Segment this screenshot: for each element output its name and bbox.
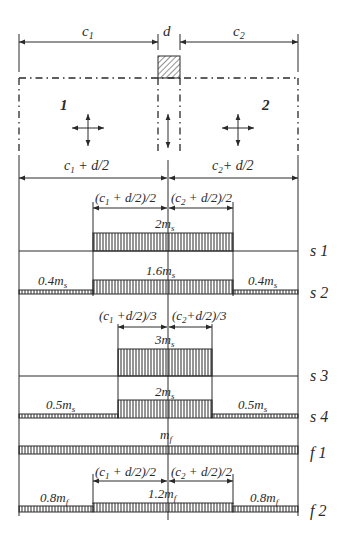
s3-moment-block [118,349,212,376]
s4-right-block [212,414,298,418]
f2-right-label: 0.8mf [250,490,280,507]
s3-row-label: s 3 [310,367,328,384]
two-way-moment-icon-right [222,114,254,146]
f2-row-label: f 2 [310,502,326,520]
s4-center-label: 2ms [155,384,175,401]
c1-half-label: c1 + d/2 [64,158,109,175]
panel-boundaries [19,78,298,155]
s3-moment-label: 3ms [154,332,175,349]
c2-label: c2 [233,23,245,41]
s4-row-label: s 4 [310,408,328,425]
strip-s4: 2ms 0.5ms 0.5ms s 4 [19,384,328,425]
strip-f2: (c1 + d/2)/2 (c2 + d/2)/2 1.2mf 0.8mf 0.… [19,464,326,520]
s2-center-block [93,280,233,294]
c1-label: c1 [82,23,94,41]
s1-dim-right-label: (c2 + d/2)/2 [171,190,232,207]
s4-right-label: 0.5ms [238,397,268,414]
strip-s2: 1.6ms 0.4ms 0.4ms s 2 [19,263,328,301]
s3-dim-left-label: (c1 +d/2)/3 [99,308,157,325]
column-section [158,56,180,78]
s2-right-block [233,290,298,294]
s3-dim-right-label: (c2+d/2)/3 [172,308,227,325]
f2-center-block [93,503,233,512]
f2-left-label: 0.8mf [40,490,70,507]
s4-left-block [19,414,118,418]
s4-left-label: 0.5ms [46,397,76,414]
s2-row-label: s 2 [310,284,328,301]
f2-dim-left-label: (c1 + d/2)/2 [95,464,156,481]
f2-right-block [233,506,298,512]
panel-1-label: 1 [60,97,68,113]
f1-moment-block [19,446,298,454]
s4-center-block [118,400,212,418]
s2-left-label: 0.4ms [38,273,68,290]
f2-center-label: 1.2mf [148,486,178,503]
two-way-moment-icon-left [72,114,104,146]
f2-left-block [19,506,93,512]
s2-right-label: 0.4ms [248,273,278,290]
f1-row-label: f 1 [310,444,326,462]
f1-moment-label: mf [160,427,173,444]
s1-row-label: s 1 [310,242,328,259]
panel-2-label: 2 [261,97,270,113]
s2-center-label: 1.6ms [146,263,176,280]
strip-method-diagram: c1 d c2 1 2 c1 + d/2 c2+ d/2 [0,0,352,541]
s1-dim-left-label: (c1 + d/2)/2 [95,190,156,207]
s2-left-block [19,290,93,294]
d-label: d [163,23,171,39]
f2-dim-right-label: (c2 + d/2)/2 [171,464,232,481]
s1-moment-label: 2ms [155,216,175,233]
c2-half-label: c2+ d/2 [212,158,254,175]
s1-moment-block [93,233,233,251]
strip-f1: mf f 1 [19,427,326,462]
